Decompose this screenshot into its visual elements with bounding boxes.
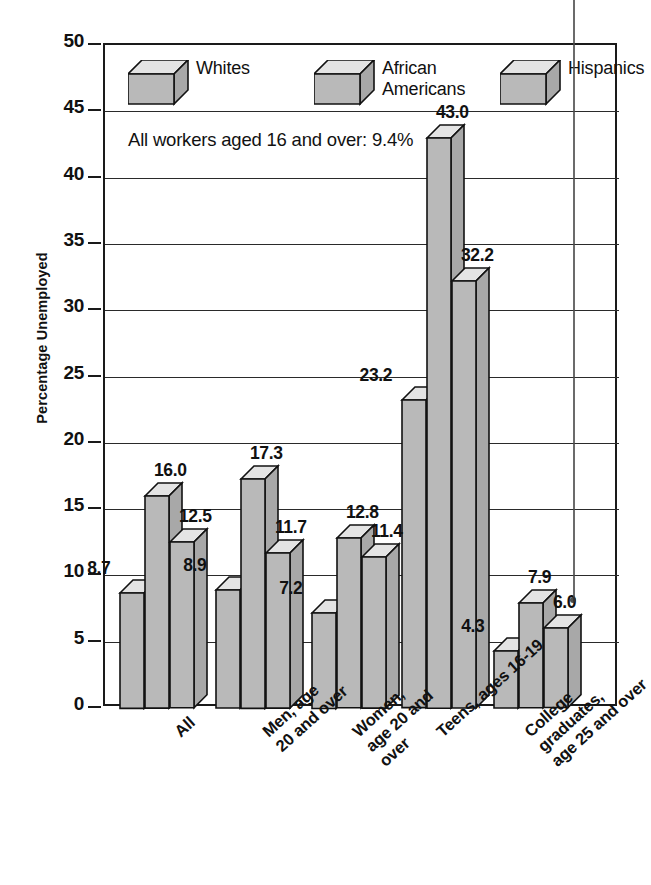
y-tick-label: 0 [38, 693, 84, 715]
y-tick-label: 45 [38, 96, 84, 118]
gridline [105, 310, 619, 311]
y-tick-mark [88, 176, 101, 178]
bar-value-label: 11.4 [371, 521, 403, 542]
bar-value-label: 17.3 [250, 443, 282, 464]
y-tick-label: 35 [38, 229, 84, 251]
bar-value-label: 7.2 [279, 578, 302, 599]
bar-value-label: 8.9 [183, 555, 206, 576]
bar-value-label: 16.0 [154, 460, 186, 481]
legend-label: Hispanics [568, 58, 644, 79]
gridline [105, 244, 619, 245]
scan-artifact-dot [570, 597, 576, 603]
y-tick-mark [88, 507, 101, 509]
legend-label: Whites [196, 58, 250, 79]
cut-off-page-header [225, 0, 415, 9]
y-tick-label: 20 [38, 428, 84, 450]
gridline [105, 178, 619, 179]
y-tick-label: 30 [38, 295, 84, 317]
bar-value-label: 12.5 [179, 506, 211, 527]
y-tick-label: 10 [38, 560, 84, 582]
y-tick-label: 50 [38, 30, 84, 52]
gridline [105, 443, 619, 444]
y-tick-mark [88, 375, 101, 377]
bar-hispanics-1 [266, 540, 303, 708]
y-tick-mark [88, 109, 101, 111]
legend-cube-icon [128, 60, 188, 104]
bar-value-label: 11.7 [275, 517, 307, 538]
y-tick-mark [88, 242, 101, 244]
y-tick-mark [88, 308, 101, 310]
bar-hispanics-3 [452, 268, 489, 708]
legend-cube-icon [314, 60, 374, 104]
bar-value-label: 7.9 [528, 567, 551, 588]
y-tick-label: 15 [38, 494, 84, 516]
scan-artifact-line [573, 0, 575, 601]
y-tick-mark [88, 706, 101, 708]
bar-value-label: 8.7 [87, 558, 110, 579]
bar-value-label: 32.2 [461, 245, 493, 266]
y-tick-mark [88, 640, 101, 642]
bar-value-label: 23.2 [360, 365, 392, 386]
x-axis-category-label: All [170, 712, 199, 741]
y-tick-label: 25 [38, 362, 84, 384]
annotation-text: All workers aged 16 and over: 9.4% [128, 129, 413, 151]
legend: Whites African Americans Hispanics [128, 56, 588, 108]
gridline [105, 111, 619, 112]
y-tick-mark [88, 441, 101, 443]
legend-label: African Americans [382, 58, 465, 100]
bar-value-label: 4.3 [461, 616, 484, 637]
legend-cube-icon [500, 60, 560, 104]
y-tick-label: 40 [38, 163, 84, 185]
y-tick-label: 5 [38, 627, 84, 649]
y-tick-mark [88, 43, 101, 45]
